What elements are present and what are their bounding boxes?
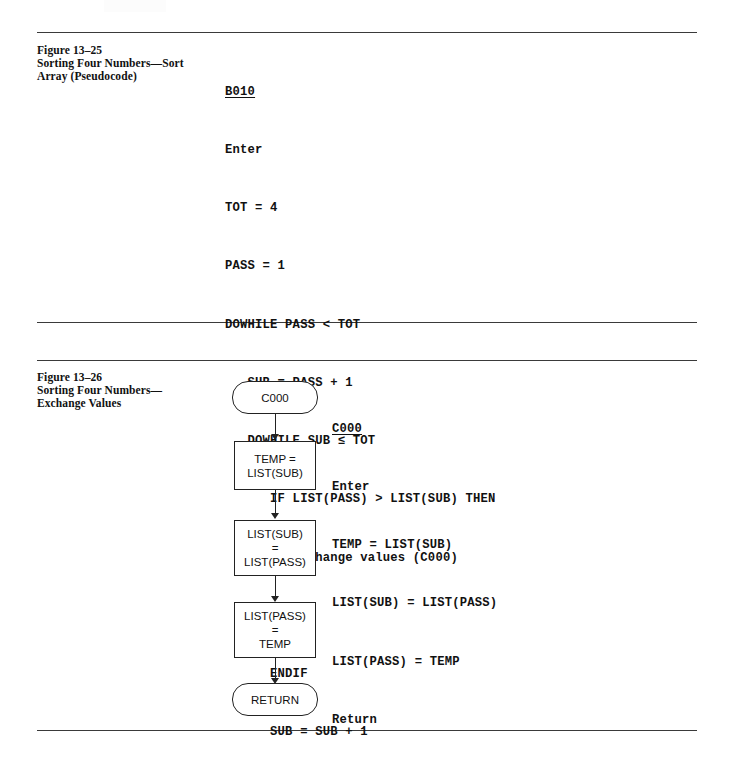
pseudocode-line: PASS = 1 (225, 257, 496, 276)
pseudocode-line: DOWHILE PASS < TOT (225, 316, 496, 335)
node-line: RETURN (251, 693, 299, 707)
caption-line: Figure 13–25 (37, 44, 227, 57)
flowchart-node-assign2: LIST(SUB) = LIST(PASS) (234, 520, 316, 576)
document-page: Figure 13–25 Sorting Four Numbers—Sort A… (0, 0, 729, 763)
caption-line: Array (Pseudocode) (37, 70, 227, 83)
caption-line: Sorting Four Numbers— (37, 384, 227, 397)
flowchart-connector (275, 576, 276, 597)
node-line: LIST(SUB) (247, 466, 303, 480)
section-rule-top (37, 32, 697, 33)
node-line: LIST(SUB) (247, 527, 303, 541)
flowchart-arrowhead-icon (271, 513, 279, 519)
pseudocode-line: TOT = 4 (225, 199, 496, 218)
pseudocode-line: TEMP = LIST(SUB) (332, 536, 497, 555)
flowchart-node-end: RETURN (232, 683, 318, 716)
node-line: TEMP (259, 637, 291, 651)
node-line: LIST(PASS) (244, 609, 306, 623)
flowchart-connector (275, 414, 276, 435)
node-line: TEMP = (254, 452, 296, 466)
pseudocode-line: LIST(SUB) = LIST(PASS) (332, 594, 497, 613)
scan-artifact (104, 0, 166, 12)
flowchart-connector (275, 658, 276, 680)
node-line: C000 (261, 391, 289, 405)
flowchart-node-assign1: TEMP = LIST(SUB) (234, 441, 316, 490)
caption-line: Figure 13–26 (37, 371, 227, 384)
node-line: = (272, 623, 279, 637)
flowchart-arrowhead-icon (271, 434, 279, 440)
pseudocode-label: C000 (332, 420, 497, 439)
node-line: LIST(PASS) (244, 555, 306, 569)
caption-line: Exchange Values (37, 397, 227, 410)
pseudocode-line: Enter (332, 478, 497, 497)
flowchart-node-start: C000 (232, 381, 318, 414)
pseudocode-line: LIST(PASS) = TEMP (332, 653, 497, 672)
flowchart-node-assign3: LIST(PASS) = TEMP (234, 602, 316, 658)
pseudocode-line: Enter (225, 141, 496, 160)
pseudocode-label: B010 (225, 83, 496, 102)
pseudocode-line: Return (332, 711, 497, 730)
node-line: = (272, 541, 279, 555)
figure-13-26-pseudocode: C000 Enter TEMP = LIST(SUB) LIST(SUB) = … (332, 381, 497, 763)
figure-13-25-caption: Figure 13–25 Sorting Four Numbers—Sort A… (37, 44, 227, 84)
flowchart-connector (275, 490, 276, 514)
figure-13-26-caption: Figure 13–26 Sorting Four Numbers— Excha… (37, 371, 227, 411)
caption-line: Sorting Four Numbers—Sort (37, 57, 227, 70)
